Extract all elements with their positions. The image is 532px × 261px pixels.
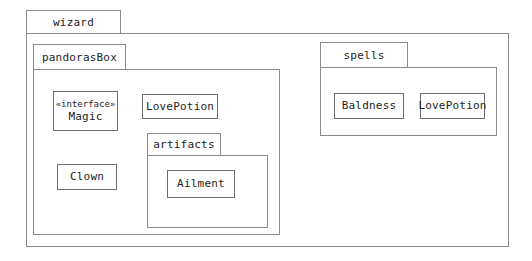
class-name-ailment: Ailment bbox=[177, 177, 225, 191]
class-name-clown: Clown bbox=[70, 170, 104, 184]
class-box-lovepotion-spells[interactable]: LovePotion bbox=[420, 93, 485, 119]
class-name-lovepotion-pandorasbox: LovePotion bbox=[146, 100, 214, 114]
class-box-clown[interactable]: Clown bbox=[57, 164, 117, 190]
class-stereotype-magic: «interface» bbox=[56, 98, 116, 110]
uml-package-diagram: wizard pandorasBox artifacts spells «int… bbox=[0, 0, 532, 261]
class-name-lovepotion-spells: LovePotion bbox=[418, 99, 486, 113]
package-label-wizard: wizard bbox=[53, 16, 94, 29]
class-name-magic: Magic bbox=[68, 110, 102, 124]
class-name-baldness: Baldness bbox=[342, 99, 397, 113]
package-tab-artifacts[interactable]: artifacts bbox=[147, 133, 221, 156]
class-box-magic[interactable]: «interface» Magic bbox=[53, 91, 118, 131]
class-box-ailment[interactable]: Ailment bbox=[167, 170, 235, 198]
package-label-artifacts: artifacts bbox=[153, 138, 214, 151]
package-tab-wizard[interactable]: wizard bbox=[26, 10, 121, 34]
class-box-lovepotion-pandorasbox[interactable]: LovePotion bbox=[142, 94, 218, 119]
package-tab-spells[interactable]: spells bbox=[320, 42, 408, 68]
package-label-pandorasbox: pandorasBox bbox=[42, 51, 117, 64]
class-box-baldness[interactable]: Baldness bbox=[334, 93, 404, 119]
package-tab-pandorasbox[interactable]: pandorasBox bbox=[33, 44, 126, 70]
package-label-spells: spells bbox=[344, 49, 385, 62]
